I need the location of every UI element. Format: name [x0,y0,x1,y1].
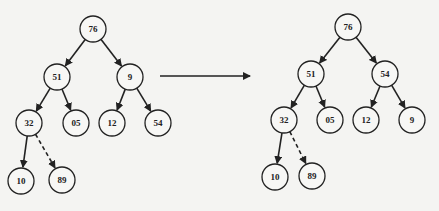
edge-before-51-to-32 [36,88,50,111]
edge-before-76-to-9 [101,39,122,66]
edge-before-32-to-89 [36,134,55,168]
tree-node-before-32: 32 [16,110,42,136]
tree-node-after-05: 05 [317,107,343,133]
edge-after-32-to-89 [290,132,306,164]
tree-node-after-76: 76 [335,14,361,40]
tree-node-after-9: 9 [399,107,425,133]
node-label: 9 [128,72,133,82]
tree-node-before-05: 05 [63,110,89,136]
tree-node-after-10: 10 [262,164,288,190]
tree-node-after-12: 12 [353,107,379,133]
node-label: 51 [53,72,63,82]
node-label: 32 [25,118,35,128]
edge-after-54-to-9 [392,85,405,108]
tree-node-before-12: 12 [99,110,125,136]
node-label: 12 [108,118,118,128]
node-label: 10 [271,172,281,182]
tree-node-before-76: 76 [80,16,106,42]
node-label: 51 [307,69,317,79]
edge-after-32-to-10 [277,133,282,163]
node-label: 54 [381,69,391,79]
nodes-layer: 7651932051254108976515432051291089 [8,14,425,194]
node-label: 05 [326,115,336,125]
node-label: 54 [154,118,164,128]
node-label: 9 [410,115,415,125]
tree-node-before-89: 89 [49,167,75,193]
tree-node-after-32: 32 [271,107,297,133]
edge-before-76-to-51 [65,39,85,65]
tree-diagram: 7651932051254108976515432051291089 [0,0,439,211]
node-label: 76 [89,24,99,34]
edge-after-76-to-51 [320,37,340,63]
edge-after-51-to-32 [291,85,304,108]
tree-node-before-54: 54 [145,110,171,136]
tree-node-after-54: 54 [372,61,398,87]
node-label: 89 [308,171,318,181]
node-label: 89 [58,175,68,185]
edge-before-51-to-05 [62,89,71,110]
diagram-canvas: 7651932051254108976515432051291089 [0,0,439,211]
edges-layer [23,37,405,168]
edge-after-54-to-12 [371,86,380,107]
edge-after-51-to-05 [316,86,325,107]
tree-node-before-10: 10 [8,168,34,194]
node-label: 32 [280,115,290,125]
node-label: 10 [17,176,27,186]
tree-node-after-51: 51 [298,61,324,87]
tree-node-after-89: 89 [299,163,325,189]
edge-before-9-to-54 [137,88,151,111]
tree-node-before-9: 9 [117,64,143,90]
edge-before-9-to-12 [117,89,125,110]
node-label: 76 [344,22,354,32]
node-label: 12 [362,115,372,125]
node-label: 05 [72,118,82,128]
edge-after-76-to-54 [356,37,376,63]
tree-node-before-51: 51 [44,64,70,90]
edge-before-32-to-10 [23,136,27,167]
